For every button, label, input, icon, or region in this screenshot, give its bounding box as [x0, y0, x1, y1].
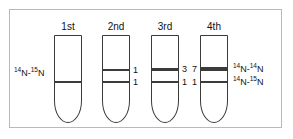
- replication-banding-figure: 14N-15N 1st 2nd 1 1 3rd 3 1: [0, 0, 293, 139]
- right-lower-prefix: N-: [240, 77, 250, 87]
- band-label-3rd-upper: 3: [182, 65, 187, 74]
- band-label-4th-lower: 1: [192, 78, 197, 87]
- tube-body-2nd: 1 1: [102, 35, 130, 123]
- band-label-2nd-lower: 1: [133, 78, 138, 87]
- left-species-suffix-sup: 15: [31, 66, 38, 73]
- band-2nd-upper: [102, 69, 130, 71]
- band-label-4th-upper: 7: [192, 65, 197, 74]
- right-upper-prefix: N-: [240, 64, 250, 74]
- left-species-label: 14N-15N: [14, 68, 44, 78]
- band-label-3rd-lower: 1: [182, 78, 187, 87]
- right-upper-suffix: N: [257, 64, 264, 74]
- right-species-label-upper: 14N-14N: [233, 64, 263, 74]
- band-2nd-lower: [102, 81, 130, 83]
- tube-header-1st: 1st: [47, 21, 89, 32]
- left-species-prefix: N-: [21, 68, 31, 78]
- left-species-suffix: N: [38, 68, 45, 78]
- tube-body-3rd: 3 1: [151, 35, 179, 123]
- right-lower-suffix-sup: 15: [250, 75, 257, 82]
- right-species-label-lower: 14N-15N: [233, 77, 263, 87]
- tube-header-3rd: 3rd: [144, 21, 186, 32]
- band-4th-lower: [200, 81, 228, 83]
- tube-body-1st: [54, 35, 82, 123]
- right-lower-suffix: N: [257, 77, 264, 87]
- band-1st-hybrid: [54, 81, 82, 83]
- tube-header-4th: 4th: [193, 21, 235, 32]
- tube-header-2nd: 2nd: [95, 21, 137, 32]
- band-label-2nd-upper: 1: [133, 66, 138, 75]
- band-4th-upper: [200, 67, 228, 71]
- tube-body-4th: 7 1 14N-14N 14N-15N: [200, 35, 228, 123]
- figure-frame: 14N-15N 1st 2nd 1 1 3rd 3 1: [9, 9, 282, 128]
- band-3rd-upper: [151, 68, 179, 71]
- right-upper-suffix-sup: 14: [250, 62, 257, 69]
- band-3rd-lower: [151, 81, 179, 83]
